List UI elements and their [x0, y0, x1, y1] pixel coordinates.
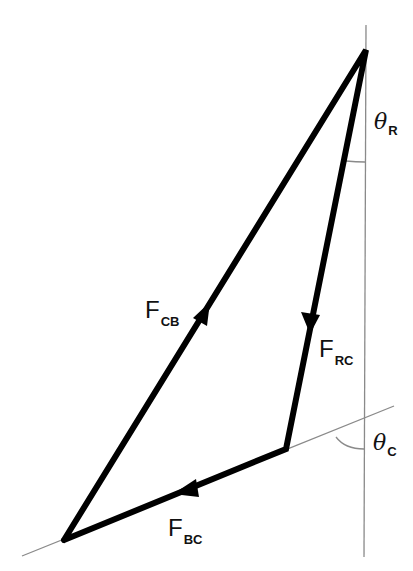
force-polygon	[64, 50, 366, 540]
theta-c-symbol: θ	[373, 430, 386, 455]
vertical-reference-line	[364, 25, 366, 557]
theta-c-arc	[336, 437, 364, 449]
f-rc-label: FRC	[319, 337, 353, 361]
theta-c-label: θC	[373, 432, 397, 454]
theta-r-subscript: R	[388, 123, 397, 138]
f-bc-subscript: BC	[184, 532, 203, 547]
theta-r-symbol: θ	[374, 109, 387, 134]
f-rc-arrowhead	[301, 312, 320, 334]
theta-c-subscript: C	[387, 444, 396, 459]
f-cb-subscript: CB	[161, 314, 180, 329]
f-bc-arrowhead	[173, 479, 199, 497]
f-bc-label: FBC	[168, 516, 202, 540]
f-rc-symbol: F	[319, 335, 334, 362]
force-triangle-diagram	[0, 0, 413, 571]
f-cb-symbol: F	[145, 296, 160, 323]
f-rc-subscript: RC	[335, 353, 354, 368]
theta-r-arc	[346, 161, 365, 162]
f-cb-label: FCB	[145, 298, 179, 322]
theta-r-label: θR	[374, 111, 398, 133]
f-bc-symbol: F	[168, 514, 183, 541]
